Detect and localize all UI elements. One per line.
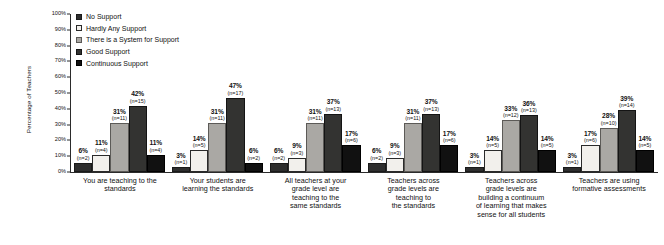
bar-value-label: 17%(n=6) (443, 131, 456, 144)
bar-group: 3%(n=1)14%(n=5)31%(n=11)47%(n=17)6%(n=2) (172, 14, 263, 172)
bar-rect (404, 123, 422, 172)
bar-good: 36%(n=13) (520, 14, 538, 172)
bar-value-label: 36%(n=13) (521, 101, 537, 114)
bar-group: 6%(n=2)9%(n=3)31%(n=11)37%(n=13)17%(n=6) (368, 14, 459, 172)
bar-count: (n=5) (541, 142, 554, 148)
bar-no: 3%(n=1) (563, 14, 581, 172)
bar-good: 42%(n=15) (129, 14, 147, 172)
bar-group: 6%(n=2)11%(n=4)31%(n=11)42%(n=15)11%(n=4… (74, 14, 165, 172)
bar-group: 3%(n=1)17%(n=6)28%(n=10)39%(n=14)14%(n=5… (563, 14, 654, 172)
x-axis-label-line: standards (65, 185, 175, 193)
bar-rect (465, 167, 483, 172)
bar-rect (386, 158, 404, 172)
bar-cont: 14%(n=5) (636, 14, 654, 172)
bar-value-label: 14%(n=5) (541, 136, 554, 149)
y-axis-tick-label: 40% (55, 106, 66, 112)
bar-cont: 17%(n=6) (440, 14, 458, 172)
bar-chart: Percentage of Teachers 100%90%80%70%60%5… (0, 0, 664, 245)
bar-count: (n=15) (130, 98, 146, 104)
bar-rect (440, 145, 458, 172)
y-axis-tick-label: 20% (55, 138, 66, 144)
bar-count: (n=2) (370, 155, 383, 161)
bar-value-label: 6%(n=2) (370, 148, 383, 161)
bar-count: (n=5) (638, 142, 651, 148)
bar-hardly: 14%(n=5) (190, 14, 208, 172)
bar-count: (n=1) (468, 159, 481, 165)
y-axis-tick-label: 10% (55, 153, 66, 159)
bar-rect (245, 163, 263, 172)
bar-rect (324, 114, 342, 172)
bar-no: 6%(n=2) (270, 14, 288, 172)
bar-count: (n=4) (95, 147, 108, 153)
x-axis-label: Teachers acrossgrade levels areteaching … (359, 177, 469, 211)
bar-no: 3%(n=1) (465, 14, 483, 172)
bar-count: (n=13) (325, 106, 341, 112)
bar-rect (422, 114, 440, 172)
bar-group: 3%(n=1)14%(n=5)33%(n=12)36%(n=13)14%(n=5… (465, 14, 556, 172)
bar-value-label: 33%(n=12) (503, 106, 519, 119)
bar-count: (n=17) (228, 90, 244, 96)
bar-value-label: 3%(n=1) (468, 153, 481, 166)
bar-good: 37%(n=13) (324, 14, 342, 172)
bar-value-label: 9%(n=3) (291, 143, 304, 156)
bar-value-label: 31%(n=11) (405, 109, 420, 122)
x-axis-label-line: sense for all students (456, 211, 566, 219)
bar-count: (n=13) (423, 106, 439, 112)
bar-rect (520, 115, 538, 172)
bar-value-label: 9%(n=3) (388, 143, 401, 156)
y-axis-tick-label: 50% (55, 90, 66, 96)
bar-rect (484, 150, 502, 172)
plot-area: 6%(n=2)11%(n=4)31%(n=11)42%(n=15)11%(n=4… (71, 14, 658, 172)
bar-count: (n=3) (291, 150, 304, 156)
y-axis-ticks: 100%90%80%70%60%50%40%30%20%10%0% (30, 14, 70, 172)
bar-group: 6%(n=2)9%(n=3)31%(n=11)37%(n=13)17%(n=6) (270, 14, 361, 172)
x-axis-label-line: learning the standards (163, 185, 273, 193)
x-axis-label-line: the standards (359, 202, 469, 210)
bar-no: 3%(n=1) (172, 14, 190, 172)
y-axis-tick-label: 100% (52, 11, 66, 17)
bar-value-label: 14%(n=5) (638, 136, 651, 149)
bar-count: (n=12) (503, 112, 519, 118)
bar-count: (n=6) (443, 137, 456, 143)
y-axis-tick-label: 30% (55, 122, 66, 128)
bar-value-label: 6%(n=2) (272, 148, 285, 161)
bar-value-label: 6%(n=2) (247, 148, 260, 161)
bar-value-label: 31%(n=11) (210, 109, 225, 122)
bar-rect (368, 163, 386, 172)
bar-rect (563, 167, 581, 172)
bar-count: (n=11) (405, 115, 420, 121)
bar-value-label: 11%(n=4) (149, 140, 162, 153)
bar-count: (n=2) (77, 155, 90, 161)
bar-system: 31%(n=11) (208, 14, 226, 172)
x-axis-label: Teachers are usingformative assessments (554, 177, 664, 194)
bar-value-label: 39%(n=14) (619, 96, 635, 109)
bar-count: (n=2) (272, 155, 285, 161)
x-axis-line (70, 172, 658, 173)
bar-cont: 14%(n=5) (538, 14, 556, 172)
x-axis-label: Your students arelearning the standards (163, 177, 273, 194)
bar-rect (208, 123, 226, 172)
bar-system: 31%(n=11) (306, 14, 324, 172)
bar-count: (n=6) (345, 137, 358, 143)
bar-system: 28%(n=10) (600, 14, 618, 172)
y-axis-tick-label: 60% (55, 74, 66, 80)
bar-value-label: 28%(n=10) (601, 113, 617, 126)
bar-value-label: 3%(n=1) (566, 153, 579, 166)
bar-no: 6%(n=2) (368, 14, 386, 172)
bar-rect (600, 128, 618, 172)
bar-system: 31%(n=11) (404, 14, 422, 172)
bar-rect (618, 110, 636, 172)
bar-no: 6%(n=2) (74, 14, 92, 172)
bar-value-label: 42%(n=15) (130, 91, 146, 104)
bar-rect (226, 98, 244, 172)
bar-value-label: 14%(n=5) (486, 136, 499, 149)
bar-value-label: 37%(n=13) (325, 99, 341, 112)
bar-cont: 6%(n=2) (245, 14, 263, 172)
bar-rect (147, 155, 165, 172)
y-axis-tick-label: 80% (55, 43, 66, 49)
bar-rect (502, 120, 520, 172)
bar-count: (n=11) (307, 115, 322, 121)
bar-value-label: 3%(n=1) (175, 153, 188, 166)
y-axis-tick-label: 0% (58, 169, 66, 175)
bar-hardly: 11%(n=4) (92, 14, 110, 172)
